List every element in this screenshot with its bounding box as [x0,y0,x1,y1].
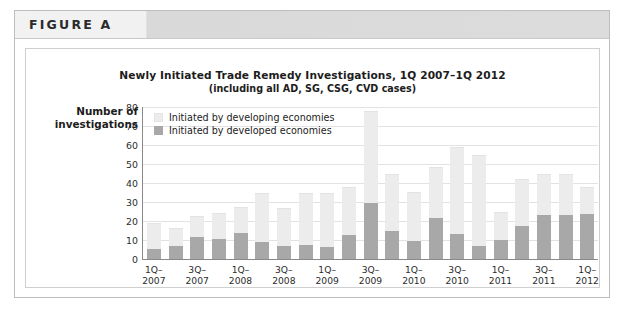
y-tick-label: 50 [126,159,138,170]
bar-segment-developing [169,228,183,246]
bar-2Q-2010 [429,167,443,259]
x-tick-label-line2: 2012 [575,275,598,286]
bar-segment-developed [559,215,573,259]
bar-segment-developed [190,237,204,259]
x-tick-label: 3Q–2009 [359,264,382,286]
x-tick-label: 1Q–2012 [575,264,598,286]
bar-segment-developed [299,245,313,259]
x-tick-label-line1: 1Q– [142,264,165,275]
bar-3Q-2010 [450,147,464,259]
bar-4Q-2007 [212,213,226,259]
bar-segment-developing [407,192,421,241]
x-tick-label-line1: 1Q– [315,264,338,275]
bar-segment-developing [472,155,486,246]
bar-segment-developed [277,246,291,259]
bar-2Q-2007 [169,228,183,259]
x-tick-label: 3Q–2008 [272,264,295,286]
bar-segment-developing [515,179,529,226]
chart-panel: Newly Initiated Trade Remedy Investigati… [25,48,600,288]
bar-segment-developing [450,147,464,234]
bar-segment-developing [364,111,378,203]
y-axis-title-line1: Number of [50,105,138,118]
legend-label-developing: Initiated by developing economies [169,112,335,123]
bar-segment-developing [212,213,226,239]
x-tick-label-line1: 3Q– [272,264,295,275]
bar-segment-developing [494,212,508,240]
x-tick-label-line1: 1Q– [489,264,512,275]
y-axis-title: Number of investigations [50,105,138,131]
legend-swatch-developed-icon [154,126,163,135]
bar-2Q-2008 [255,193,269,260]
figure-header-bar: FIGURE A [15,11,609,39]
legend-item-developing: Initiated by developing economies [154,111,335,124]
x-tick-label-line1: 3Q– [185,264,208,275]
bar-segment-developed [169,246,183,259]
x-tick-label: 3Q–2010 [445,264,468,286]
bar-segment-developed [450,234,464,259]
x-tick-label: 1Q–2011 [489,264,512,286]
bar-segment-developed [494,240,508,259]
x-tick-label-line2: 2010 [402,275,425,286]
bar-segment-developed [407,241,421,259]
bar-segment-developed [385,231,399,259]
y-tick-label: 10 [126,235,138,246]
chart-subtitle: (including all AD, SG, CSG, CVD cases) [26,83,599,94]
bar-segment-developed [147,249,161,259]
x-tick-label-line2: 2009 [359,275,382,286]
bar-segment-developing [429,167,443,218]
y-tick-label: 70 [126,121,138,132]
bar-segment-developing [234,207,248,234]
bar-segment-developed [537,215,551,259]
figure-frame: FIGURE A Newly Initiated Trade Remedy In… [14,10,610,298]
x-tick-label: 3Q–2007 [185,264,208,286]
x-tick-label: 1Q–2007 [142,264,165,286]
legend-label-developed: Initiated by developed economies [169,125,332,136]
bar-3Q-2008 [277,208,291,259]
x-tick-label-line2: 2010 [445,275,468,286]
x-tick-label-line1: 1Q– [229,264,252,275]
x-tick-label-line2: 2008 [272,275,295,286]
bar-segment-developing [559,174,573,216]
legend-swatch-developing-icon [154,113,163,122]
x-tick-label-line2: 2007 [185,275,208,286]
bar-segment-developing [147,223,161,249]
bar-segment-developed [515,226,529,259]
bar-1Q-2011 [494,212,508,259]
bar-segment-developed [472,246,486,259]
x-tick-label-line2: 2007 [142,275,165,286]
bar-1Q-2008 [234,207,248,259]
chart-title: Newly Initiated Trade Remedy Investigati… [26,69,599,81]
gridline [143,107,598,108]
bar-segment-developed [255,242,269,259]
y-tick-label: 30 [126,197,138,208]
x-tick-label-line1: 3Q– [445,264,468,275]
x-tick-label-line2: 2011 [489,275,512,286]
y-tick-label: 60 [126,140,138,151]
bar-segment-developing [299,193,313,245]
bar-4Q-2008 [299,193,313,260]
x-tick-label: 1Q–2009 [315,264,338,286]
chart-legend: Initiated by developing economies Initia… [154,111,335,137]
bar-segment-developing [320,193,334,247]
bar-2Q-2011 [515,179,529,259]
x-tick-label: 1Q–2010 [402,264,425,286]
bar-4Q-2009 [385,174,399,260]
x-tick-label-line1: 1Q– [402,264,425,275]
bar-segment-developed [580,214,594,259]
x-tick-label-line1: 1Q– [575,264,598,275]
bar-segment-developing [537,174,551,216]
x-tick-label-line1: 3Q– [532,264,555,275]
bar-1Q-2007 [147,223,161,259]
bar-3Q-2009 [364,111,378,259]
bar-segment-developed [429,218,443,259]
legend-item-developed: Initiated by developed economies [154,124,335,137]
bar-1Q-2010 [407,192,421,259]
bar-segment-developing [385,174,399,232]
y-tick-label: 20 [126,216,138,227]
bar-1Q-2012 [580,187,594,259]
bar-segment-developed [320,247,334,259]
y-tick-label: 40 [126,178,138,189]
bar-4Q-2011 [559,174,573,260]
y-tick-label: 80 [126,102,138,113]
bar-segment-developing [190,216,204,237]
